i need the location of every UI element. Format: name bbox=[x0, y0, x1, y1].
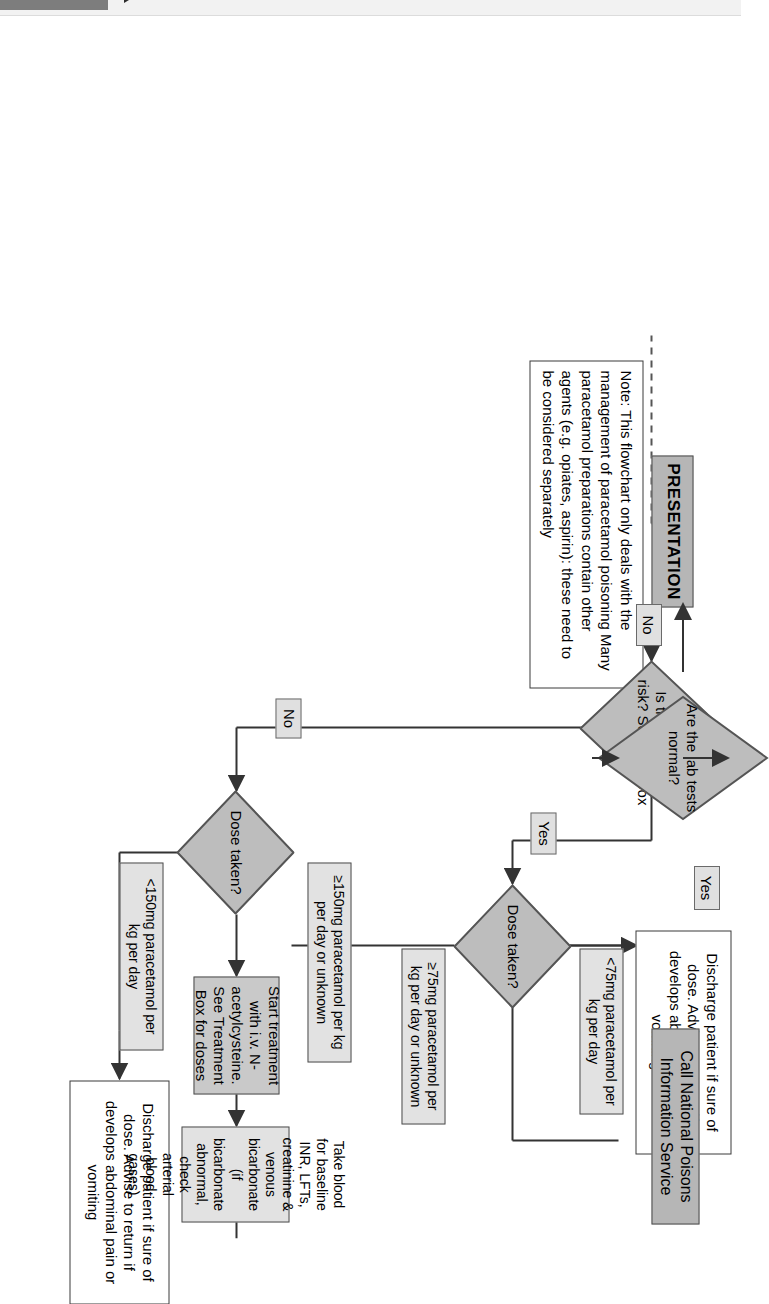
node-call-poisons[interactable]: Call National Poisons Information Servic… bbox=[651, 1028, 699, 1224]
edge-label-at-risk-no: No bbox=[275, 698, 301, 738]
edge-label-dose-lower-low: <150mg paracetamol per kg per day bbox=[119, 862, 163, 1050]
edge-label-dose-lower-high: ≥150mg paracetamol per kg per day or unk… bbox=[307, 862, 351, 1062]
edge-label-dose-upper-low: <75mg paracetamol per kg per day bbox=[579, 948, 623, 1114]
node-dose-taken-upper-label: Dose taken? bbox=[453, 884, 571, 1008]
node-take-blood[interactable]: Take blood for baseline INR, LFTs, creat… bbox=[181, 1126, 289, 1222]
node-dose-taken-lower[interactable]: Dose taken? bbox=[176, 790, 294, 914]
chapter-title: PARACETAMOL bbox=[150, 0, 323, 4]
play-triangle-icon bbox=[124, 0, 139, 3]
page-header: PARACETAMOL bbox=[0, 0, 741, 16]
node-presentation[interactable]: PRESENTATION bbox=[651, 455, 693, 607]
node-dose-taken-upper[interactable]: Dose taken? bbox=[453, 884, 571, 1008]
node-start-treatment[interactable]: Start treatment with i.v. N-acetylcystei… bbox=[193, 976, 279, 1094]
node-dose-taken-lower-label: Dose taken? bbox=[176, 790, 294, 914]
node-at-risk[interactable]: Is the patient at risk? See Risk Box bbox=[579, 660, 723, 796]
header-divider bbox=[0, 15, 741, 16]
node-at-risk-label: Is the patient at risk? See Risk Box bbox=[579, 660, 723, 824]
edge-label-at-risk-yes: Yes bbox=[530, 812, 556, 854]
edge-label-dose-upper-high: ≥75mg paracetamol per kg per day or unkn… bbox=[401, 948, 445, 1124]
chapter-tab-block bbox=[0, 0, 108, 10]
flowchart-note: Note: This flowchart only deals with the… bbox=[530, 360, 644, 688]
